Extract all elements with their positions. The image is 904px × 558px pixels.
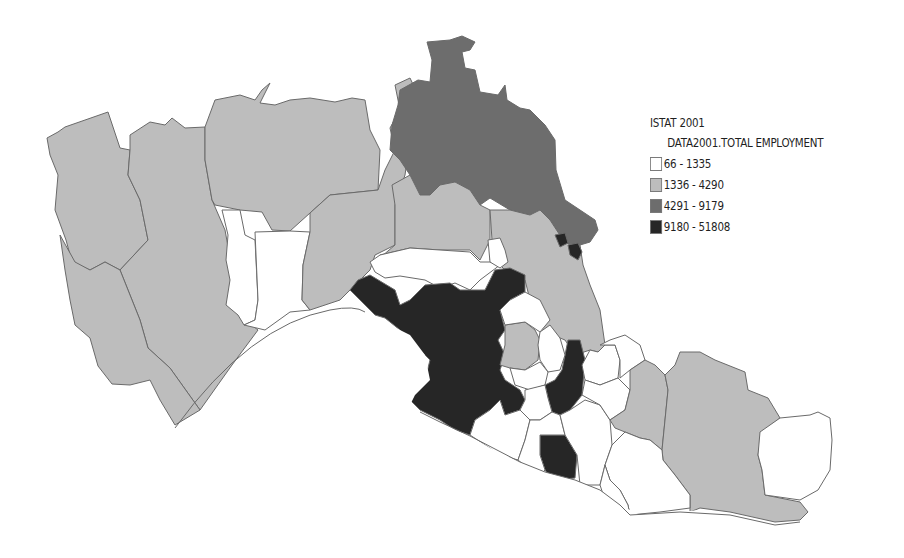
map-legend: ISTAT 2001 DATA2001.TOTAL EMPLOYMENT 66 …	[650, 113, 823, 237]
legend-item: 66 - 1335	[650, 153, 823, 174]
legend-swatch-dark-gray	[650, 199, 662, 213]
legend-field-name: DATA2001.TOTAL EMPLOYMENT	[650, 133, 823, 153]
legend-swatch-black	[650, 220, 662, 234]
legend-label: 4291 - 9179	[664, 196, 724, 216]
legend-swatch-white	[650, 157, 662, 171]
choropleth-map	[0, 0, 904, 558]
legend-item: 1336 - 4290	[650, 174, 823, 195]
legend-title: ISTAT 2001	[650, 113, 823, 133]
legend-item: 4291 - 9179	[650, 195, 823, 216]
legend-item: 9180 - 51808	[650, 216, 823, 237]
region-southeast-white	[758, 412, 832, 500]
legend-label: 9180 - 51808	[664, 217, 730, 237]
legend-swatch-light-gray	[650, 178, 662, 192]
legend-label: 66 - 1335	[664, 154, 711, 174]
region-inner-gray	[500, 322, 540, 370]
legend-label: 1336 - 4290	[664, 175, 724, 195]
